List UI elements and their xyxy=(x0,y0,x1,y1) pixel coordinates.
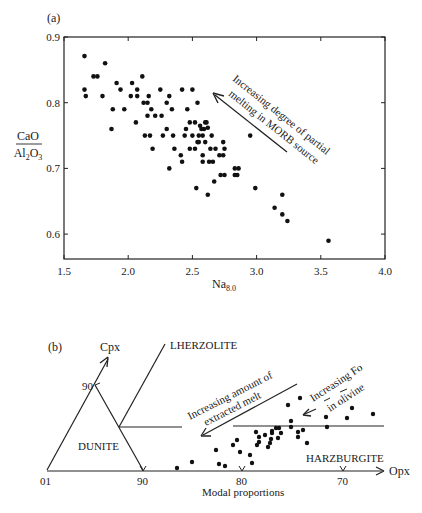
x-axis-ticks: 1.52.02.53.03.54.0 xyxy=(57,37,392,277)
y-label-numerator: CaO xyxy=(17,129,39,143)
data-point xyxy=(184,127,189,132)
data-point xyxy=(146,94,151,99)
data-point xyxy=(301,428,305,432)
data-point xyxy=(221,153,226,158)
data-point xyxy=(159,114,164,119)
y-label-denominator: Al2O3 xyxy=(14,146,43,162)
data-point xyxy=(254,430,258,434)
y-tick-label: 0.7 xyxy=(46,162,60,174)
data-point xyxy=(143,133,148,138)
data-point xyxy=(135,94,140,99)
data-point xyxy=(193,146,198,151)
data-point xyxy=(190,87,195,92)
data-point xyxy=(193,120,198,125)
data-point xyxy=(200,133,205,138)
data-point xyxy=(130,81,135,86)
data-point xyxy=(270,431,274,435)
fo-annotation: Increasing Fo in olivine xyxy=(303,361,366,416)
origin-label: 01 xyxy=(40,475,51,487)
data-point xyxy=(298,396,302,400)
x-tick-label: 4.0 xyxy=(378,265,392,277)
data-point xyxy=(148,133,153,138)
field-lherzolite: LHERZOLITE xyxy=(170,339,237,351)
data-point xyxy=(135,87,140,92)
data-point xyxy=(250,461,254,465)
data-point xyxy=(180,87,185,92)
data-point xyxy=(111,107,116,112)
x-tick-label: 2.0 xyxy=(121,265,135,277)
data-point xyxy=(103,61,108,66)
data-point xyxy=(238,450,242,454)
data-point xyxy=(203,140,208,145)
data-point xyxy=(345,416,349,420)
melting-annotation: Increasing degree of partial melting in … xyxy=(213,72,333,166)
data-point xyxy=(190,460,194,464)
data-point xyxy=(325,425,329,429)
data-point xyxy=(206,192,211,197)
data-point xyxy=(276,436,280,440)
data-point xyxy=(305,441,309,445)
data-point xyxy=(326,238,331,243)
data-point xyxy=(263,433,267,437)
data-point xyxy=(122,107,127,112)
data-point xyxy=(182,133,187,138)
data-point xyxy=(279,431,283,435)
data-point xyxy=(188,146,193,151)
data-point xyxy=(257,435,261,439)
cpx-axis xyxy=(47,359,108,470)
data-point xyxy=(200,160,205,165)
data-point xyxy=(257,440,261,444)
data-point xyxy=(198,123,203,128)
data-point xyxy=(82,87,87,92)
data-point xyxy=(248,453,252,457)
data-point xyxy=(188,120,193,125)
data-point xyxy=(153,114,158,119)
data-point xyxy=(84,94,89,99)
lherzolite-boundary xyxy=(119,344,165,427)
x-tick-label: 3.0 xyxy=(250,265,264,277)
x-tick-label: 3.5 xyxy=(314,265,328,277)
tick-80 xyxy=(239,466,245,471)
data-point xyxy=(213,146,218,151)
data-point xyxy=(248,133,253,138)
data-point xyxy=(164,100,169,105)
data-point xyxy=(190,133,195,138)
data-point xyxy=(235,438,239,442)
data-point xyxy=(253,186,258,191)
data-point xyxy=(158,87,163,92)
data-point xyxy=(170,107,175,112)
panel-b-label: (b) xyxy=(48,340,62,354)
data-point xyxy=(172,146,177,151)
data-point xyxy=(231,443,235,447)
data-point xyxy=(195,140,200,145)
data-point xyxy=(171,133,176,138)
data-point xyxy=(235,173,240,178)
base-tick-label-90: 90 xyxy=(137,475,149,487)
data-point xyxy=(100,94,105,99)
data-point xyxy=(167,94,172,99)
opx-label: Opx xyxy=(389,464,410,478)
data-point xyxy=(150,146,155,151)
data-point xyxy=(350,406,354,410)
data-point xyxy=(324,415,328,419)
field-dunite: DUNITE xyxy=(78,440,119,452)
panel-a-label: (a) xyxy=(47,11,60,25)
data-point xyxy=(134,120,139,125)
data-point xyxy=(82,54,87,59)
data-point xyxy=(223,464,227,468)
data-point xyxy=(164,127,169,132)
x-axis-label-modal: Modal proportions xyxy=(202,486,284,498)
x-tick-label: 1.5 xyxy=(57,265,71,277)
cpx-label: Cpx xyxy=(100,340,120,354)
tick-90 xyxy=(140,466,146,471)
data-point xyxy=(211,160,216,165)
data-point xyxy=(214,448,218,452)
data-point xyxy=(371,412,375,416)
data-point xyxy=(204,120,209,125)
data-point xyxy=(140,74,145,79)
data-point xyxy=(161,133,166,138)
data-point xyxy=(289,425,293,429)
data-point xyxy=(296,435,300,439)
data-point xyxy=(185,107,190,112)
data-point xyxy=(145,114,150,119)
